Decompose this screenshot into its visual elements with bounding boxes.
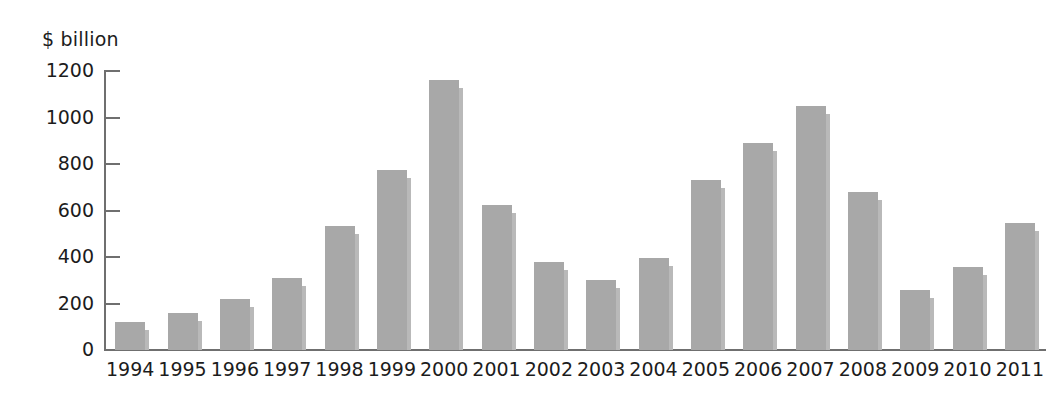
x-label-2011: 2011 bbox=[994, 358, 1046, 380]
bar-2007 bbox=[796, 71, 826, 350]
x-label-2002: 2002 bbox=[523, 358, 575, 380]
x-label-2010: 2010 bbox=[941, 358, 993, 380]
bar-2006 bbox=[743, 71, 773, 350]
bar-rect-2001 bbox=[482, 205, 512, 350]
x-label-2003: 2003 bbox=[575, 358, 627, 380]
x-label-2006: 2006 bbox=[732, 358, 784, 380]
bar-rect-1995 bbox=[168, 313, 198, 350]
y-tick-label-800: 800 bbox=[30, 152, 94, 174]
x-label-1998: 1998 bbox=[313, 358, 365, 380]
bar-rect-2000 bbox=[429, 80, 459, 350]
bar-1998 bbox=[325, 71, 355, 350]
bar-1997 bbox=[272, 71, 302, 350]
bar-2008 bbox=[848, 71, 878, 350]
bar-2011 bbox=[1005, 71, 1035, 350]
bar-2010 bbox=[953, 71, 983, 350]
bar-2009 bbox=[900, 71, 930, 350]
bars-layer bbox=[104, 71, 1046, 350]
bar-rect-2005 bbox=[691, 180, 721, 350]
x-label-2009: 2009 bbox=[889, 358, 941, 380]
bar-1994 bbox=[115, 71, 145, 350]
y-tick-label-0: 0 bbox=[30, 338, 94, 360]
bar-1996 bbox=[220, 71, 250, 350]
bar-2000 bbox=[429, 71, 459, 350]
bar-rect-2004 bbox=[639, 258, 669, 350]
bar-rect-2006 bbox=[743, 143, 773, 350]
bar-rect-2007 bbox=[796, 106, 826, 350]
bar-2003 bbox=[586, 71, 616, 350]
bar-2005 bbox=[691, 71, 721, 350]
y-tick-label-200: 200 bbox=[30, 292, 94, 314]
bar-rect-1996 bbox=[220, 299, 250, 350]
y-axis-unit-label: $ billion bbox=[42, 28, 119, 50]
bar-rect-2010 bbox=[953, 267, 983, 350]
x-label-2000: 2000 bbox=[418, 358, 470, 380]
bar-2002 bbox=[534, 71, 564, 350]
x-label-1999: 1999 bbox=[366, 358, 418, 380]
bar-rect-1997 bbox=[272, 278, 302, 350]
bar-rect-2008 bbox=[848, 192, 878, 350]
y-tick-label-400: 400 bbox=[30, 245, 94, 267]
y-tick-label-1200: 1200 bbox=[30, 59, 94, 81]
x-label-1994: 1994 bbox=[104, 358, 156, 380]
bar-2004 bbox=[639, 71, 669, 350]
x-label-2004: 2004 bbox=[627, 358, 679, 380]
bar-rect-1998 bbox=[325, 226, 355, 350]
x-label-2005: 2005 bbox=[680, 358, 732, 380]
y-tick-label-600: 600 bbox=[30, 199, 94, 221]
bar-rect-1999 bbox=[377, 170, 407, 350]
bar-2001 bbox=[482, 71, 512, 350]
x-label-2008: 2008 bbox=[837, 358, 889, 380]
x-label-1997: 1997 bbox=[261, 358, 313, 380]
x-label-1995: 1995 bbox=[156, 358, 208, 380]
y-tick-label-1000: 1000 bbox=[30, 106, 94, 128]
bar-chart: $ billion 020040060080010001200 19941995… bbox=[0, 0, 1062, 401]
bar-rect-2009 bbox=[900, 290, 930, 350]
x-label-2007: 2007 bbox=[784, 358, 836, 380]
bar-rect-2003 bbox=[586, 280, 616, 350]
x-label-2001: 2001 bbox=[470, 358, 522, 380]
bar-rect-2002 bbox=[534, 262, 564, 350]
bar-1999 bbox=[377, 71, 407, 350]
bar-rect-1994 bbox=[115, 322, 145, 350]
x-label-1996: 1996 bbox=[209, 358, 261, 380]
bar-1995 bbox=[168, 71, 198, 350]
bar-rect-2011 bbox=[1005, 223, 1035, 350]
